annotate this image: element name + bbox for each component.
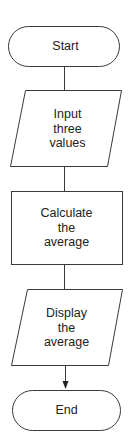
output-label-line: the: [1, 321, 131, 336]
end-label: End: [1, 403, 131, 418]
process-label: Calculate the average: [1, 206, 131, 250]
process-label-line: average: [1, 235, 131, 250]
input-label: Input three values: [2, 107, 131, 151]
output-label-line: Display: [1, 306, 131, 321]
input-label-line: Input: [2, 107, 131, 122]
process-label-line: the: [1, 221, 131, 236]
start-label-line: Start: [0, 39, 131, 54]
process-label-line: Calculate: [1, 206, 131, 221]
end-label-line: End: [1, 403, 131, 418]
start-label: Start: [0, 39, 131, 54]
output-label: Display the average: [1, 306, 131, 350]
arrowhead-icon: [63, 381, 69, 389]
input-label-line: three: [2, 122, 131, 137]
output-label-line: average: [1, 335, 131, 350]
input-label-line: values: [2, 136, 131, 151]
